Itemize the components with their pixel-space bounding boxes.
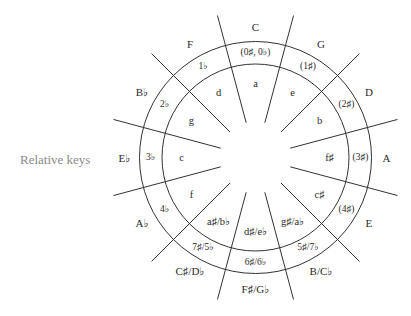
key-signature-label: 4♭	[160, 205, 169, 215]
minor-key-label: e	[290, 88, 295, 99]
major-key-label: D	[365, 87, 373, 98]
major-key-label: A♭	[135, 218, 148, 229]
minor-key-label: f♯	[325, 152, 334, 163]
minor-key-label: g♯/a♭	[281, 216, 304, 227]
major-key-label: E	[366, 218, 373, 229]
key-signature-label: (1♯)	[300, 62, 316, 72]
key-signature-label: (0♯, 0♭)	[241, 48, 271, 58]
minor-key-label: d	[216, 88, 221, 99]
segment-divider-line	[290, 119, 397, 148]
segment-divider-line	[290, 167, 397, 196]
minor-key-label: c	[179, 152, 184, 163]
major-key-label: B/C♭	[310, 265, 333, 276]
major-key-label: F♯/G♭	[242, 283, 270, 294]
key-signature-label: 5♯/7♭	[297, 244, 318, 254]
segment-divider-line	[114, 119, 221, 148]
minor-key-label: b	[317, 115, 322, 126]
minor-key-label: a	[253, 78, 258, 89]
key-signature-label: 2♭	[160, 100, 169, 110]
major-key-label: C	[252, 21, 259, 32]
key-signature-label: 7♯/5♭	[192, 244, 213, 254]
minor-key-label: a♯/b♭	[207, 216, 230, 227]
major-key-label: B♭	[136, 87, 149, 98]
circle-of-fifths-diagram: Relative keys C (0♯, 0♭) a G (1♯) e D (2…	[0, 0, 411, 316]
key-signature-label: 3♭	[146, 153, 155, 163]
relative-keys-label: Relative keys	[20, 152, 90, 168]
major-key-label: C♯/D♭	[175, 265, 204, 276]
major-key-label: E♭	[119, 152, 131, 163]
minor-key-label: g	[189, 115, 194, 126]
segment-divider-line	[217, 16, 246, 123]
minor-key-label: f	[190, 189, 194, 200]
minor-key-label: d♯/e♭	[244, 226, 267, 237]
major-key-label: F	[187, 39, 193, 50]
segment-divider-line	[265, 16, 294, 123]
minor-key-label: c♯	[315, 189, 325, 200]
key-signature-label: (4♯)	[339, 205, 355, 215]
segment-divider-line	[114, 167, 221, 196]
key-signature-label: (2♯)	[339, 100, 355, 110]
key-signature-label: 6♯/6♭	[245, 258, 266, 268]
key-signature-label: 1♭	[198, 62, 207, 72]
major-key-label: G	[317, 39, 325, 50]
major-key-label: A	[383, 152, 391, 163]
key-signature-label: (3♯)	[353, 153, 369, 163]
